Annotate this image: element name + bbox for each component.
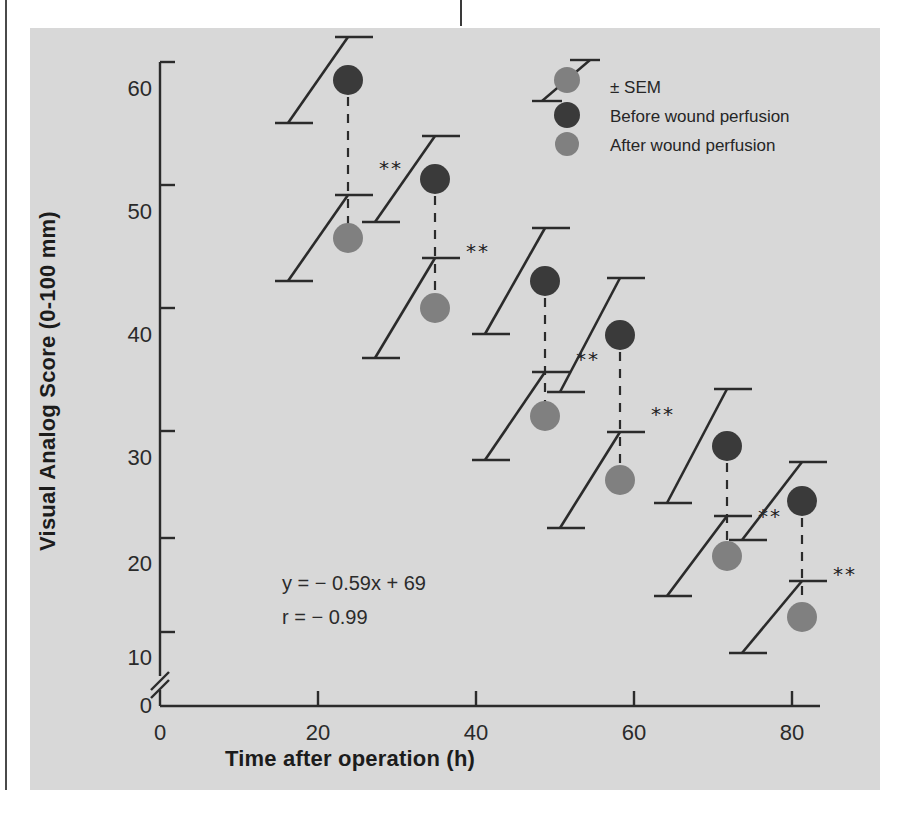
data-point-before [420,164,450,194]
chart-plot-area [30,28,880,790]
data-point-after [605,465,635,495]
page-left-rule [5,0,7,790]
legend-marker-before [554,102,580,128]
chart-panel: Visual Analog Score (0-100 mm) Time afte… [30,28,880,790]
data-point-after [530,401,560,431]
data-point-after [712,541,742,571]
significance-connectors [348,80,802,617]
data-point-after [420,293,450,323]
legend-marker-sem [554,67,580,93]
data-point-after [333,223,363,253]
page-column-rule [460,0,462,26]
series-after-markers [333,223,817,632]
data-point-before [712,431,742,461]
legend-marker-after [555,132,579,156]
data-point-before [787,486,817,516]
error-bars-group [275,37,827,653]
data-point-after [787,602,817,632]
legend-glyphs [532,60,600,156]
series-before-markers [333,65,817,516]
data-point-before [333,65,363,95]
data-point-before [530,266,560,296]
figure-page: Visual Analog Score (0-100 mm) Time afte… [0,0,905,823]
data-point-before [605,320,635,350]
